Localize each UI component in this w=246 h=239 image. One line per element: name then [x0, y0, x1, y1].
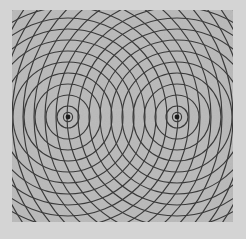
right-source-dot [175, 115, 180, 120]
interference-figure: Grey square panel showing two sets of co… [0, 0, 246, 239]
wave-pattern-canvas [0, 0, 246, 239]
left-source-dot [66, 115, 71, 120]
